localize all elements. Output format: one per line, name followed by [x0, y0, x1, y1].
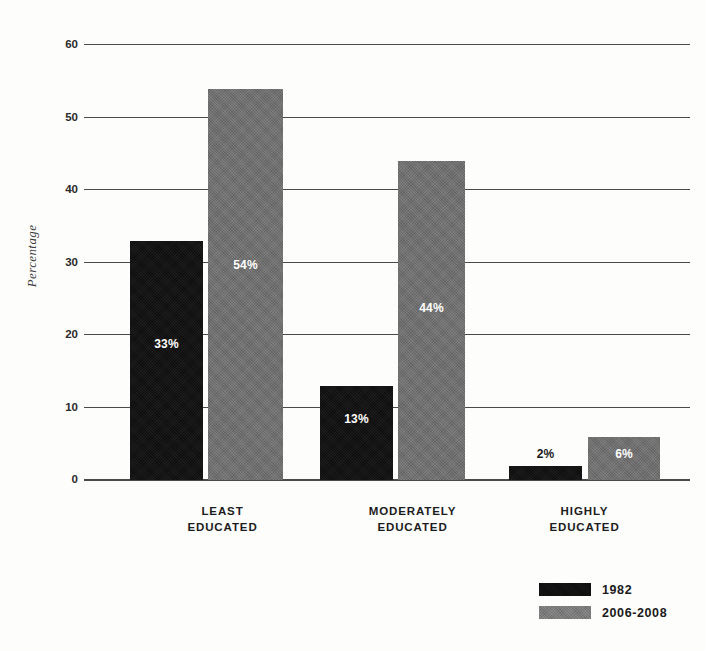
- tick-mark-60: [84, 44, 100, 45]
- tick-mark-50: [84, 117, 100, 118]
- y-tick-label-30: 30: [65, 256, 78, 268]
- legend-item-2006-2008[interactable]: 2006-2008: [539, 601, 667, 624]
- category-label-line: LEAST: [130, 503, 315, 519]
- y-tick-label-10: 10: [65, 401, 78, 413]
- bar-2006-2008-least-educated[interactable]: 54%: [208, 89, 283, 481]
- legend-swatch-icon: [539, 606, 591, 619]
- tick-mark-20: [84, 334, 100, 335]
- gridline-60: 60: [100, 44, 690, 45]
- bar-1982-least-educated[interactable]: 33%: [130, 241, 203, 480]
- category-label-line: EDUCATED: [492, 519, 677, 535]
- y-tick-label-20: 20: [65, 328, 78, 340]
- bar-value-label: 33%: [130, 337, 203, 351]
- bar-value-label: 6%: [588, 447, 660, 461]
- category-label-least-educated: LEAST EDUCATED: [130, 503, 315, 535]
- category-label-moderately-educated: MODERATELY EDUCATED: [320, 503, 505, 535]
- legend-item-label: 1982: [602, 583, 632, 597]
- bar-2006-2008-highly-educated[interactable]: 6%: [588, 437, 660, 481]
- plot-area: 60 50 40 30 20 10 0 33% 5: [100, 45, 690, 480]
- y-tick-label-50: 50: [65, 111, 78, 123]
- tick-mark-40: [84, 189, 100, 190]
- tick-mark-10: [84, 407, 100, 408]
- category-label-line: EDUCATED: [130, 519, 315, 535]
- tick-mark-30: [84, 262, 100, 263]
- y-tick-label-60: 60: [65, 38, 78, 50]
- y-tick-label-0: 0: [72, 473, 78, 485]
- category-label-line: MODERATELY: [320, 503, 505, 519]
- bar-1982-highly-educated[interactable]: 2%: [509, 466, 582, 481]
- y-axis-title: Percentage: [24, 206, 40, 306]
- chart-legend: 1982 2006-2008: [539, 578, 667, 624]
- bar-value-label: 54%: [208, 258, 283, 272]
- bar-value-label: 44%: [398, 301, 465, 315]
- gridline-50: 50: [100, 117, 690, 118]
- category-label-line: HIGHLY: [492, 503, 677, 519]
- bar-chart: Percentage 60 50 40 30 20 10 0: [0, 0, 705, 651]
- bar-value-label: 2%: [509, 447, 582, 461]
- gridline-40: 40: [100, 189, 690, 190]
- category-label-highly-educated: HIGHLY EDUCATED: [492, 503, 677, 535]
- y-tick-label-40: 40: [65, 183, 78, 195]
- bar-1982-moderately-educated[interactable]: 13%: [320, 386, 393, 480]
- legend-item-label: 2006-2008: [602, 606, 667, 620]
- bar-2006-2008-moderately-educated[interactable]: 44%: [398, 161, 465, 480]
- legend-item-1982[interactable]: 1982: [539, 578, 667, 601]
- category-label-line: EDUCATED: [320, 519, 505, 535]
- legend-swatch-icon: [539, 583, 591, 596]
- bar-value-label: 13%: [320, 412, 393, 426]
